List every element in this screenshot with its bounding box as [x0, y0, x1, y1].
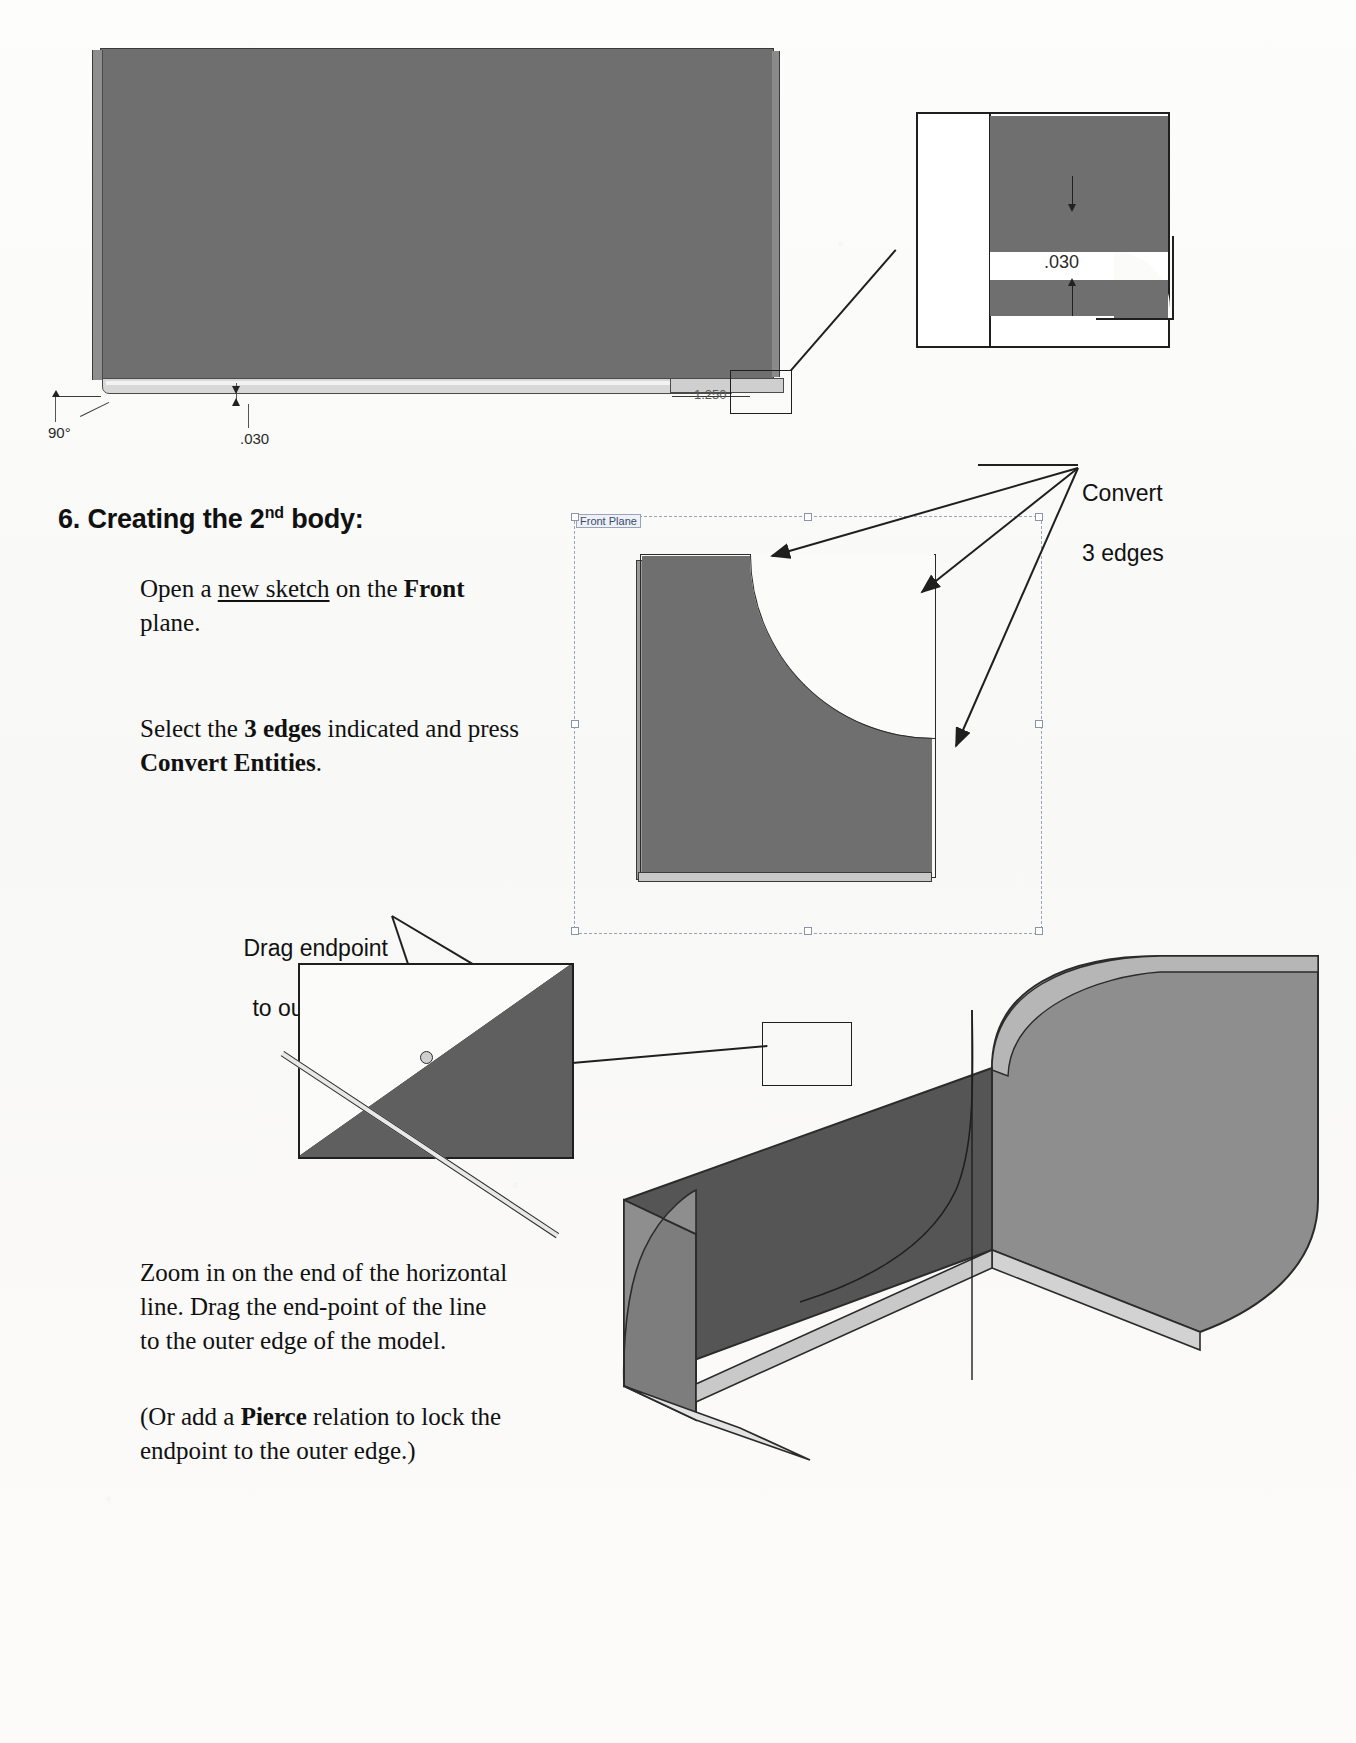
instruction-select-edges: Select the 3 edges indicated and press C…: [140, 712, 520, 780]
plate-front-face: [100, 48, 774, 380]
seg-open-a: Open a: [140, 575, 218, 602]
seg-front: Front: [404, 575, 465, 602]
page-title: 6. Creating the 2nd body:: [58, 504, 364, 535]
seg-zoom-drag-text: Zoom in on the end of the horizontal lin…: [140, 1259, 507, 1354]
plane-handle-bottom-right[interactable]: [1035, 927, 1043, 935]
instruction-zoom-drag: Zoom in on the end of the horizontal lin…: [140, 1256, 512, 1358]
step-number: 6.: [58, 504, 80, 534]
zoom-detail-edge-line: [281, 1051, 559, 1238]
top-orthographic-view: [92, 48, 782, 400]
zoom-detail-box: [298, 963, 574, 1159]
sketch-plane-label: Front Plane: [576, 514, 641, 528]
plate-left-edge: [92, 50, 103, 380]
plate-bottom-flange-highlight: [106, 381, 724, 385]
isometric-model-view: [600, 950, 1330, 1470]
step-title-main: Creating the 2: [87, 504, 264, 534]
seg-new-sketch: new sketch: [218, 575, 330, 602]
angle-extension-line: [55, 396, 56, 422]
step-title-tail: body:: [284, 504, 364, 534]
instruction-open-sketch: Open a new sketch on the Front plane.: [140, 572, 510, 640]
plane-handle-top-left[interactable]: [571, 513, 579, 521]
detail-arrow-down-stem: [1072, 176, 1074, 208]
plate-right-edge: [772, 51, 780, 377]
plane-handle-bottom-center[interactable]: [804, 927, 812, 935]
angle-leader-line: [80, 402, 109, 417]
plane-handle-mid-left[interactable]: [571, 720, 579, 728]
sketch-bottom-edge-face: [638, 872, 932, 882]
detail-edge-outline: [1096, 236, 1174, 320]
instruction-pierce-relation: (Or add a Pierce relation to lock the en…: [140, 1400, 530, 1468]
dimension-length: 1.250: [694, 387, 727, 402]
seg-period: .: [316, 749, 322, 776]
angle-arrow-icon: [52, 390, 60, 397]
seg-on-the: on the: [330, 575, 404, 602]
detail-dimension-label: .030: [1044, 252, 1079, 273]
thickness-arrow-down-icon: [232, 386, 240, 394]
zoom-detail-band: [294, 957, 594, 1157]
step-title-superscript: nd: [265, 504, 284, 521]
seg-plane: plane.: [140, 609, 200, 636]
detail-arrow-up-stem: [1072, 284, 1074, 316]
seg-pierce: Pierce: [241, 1403, 307, 1430]
seg-convert-entities: Convert Entities: [140, 749, 316, 776]
seg-or-add-a: (Or add a: [140, 1403, 241, 1430]
thickness-arrow-up-icon: [232, 398, 240, 406]
thickness-leader-line: [248, 404, 249, 428]
angle-dimension-line: [55, 396, 101, 397]
detail-leader-line: [790, 249, 896, 371]
seg-indicated: indicated and press: [321, 715, 519, 742]
dimension-thickness: .030: [240, 430, 269, 447]
detail-view-box: .030: [916, 112, 1170, 348]
model-bottom-flange-left: [624, 1386, 810, 1460]
convert-arrow-svg: [756, 456, 1116, 756]
detail-zoom-marker: [730, 370, 792, 414]
sketch-endpoint-marker[interactable]: [420, 1051, 433, 1064]
dimension-angle: 90°: [48, 424, 71, 441]
isometric-model-svg: [600, 950, 1330, 1470]
detail-upper-face: [990, 116, 1168, 252]
seg-3-edges: 3 edges: [244, 715, 321, 742]
seg-select-the: Select the: [140, 715, 244, 742]
